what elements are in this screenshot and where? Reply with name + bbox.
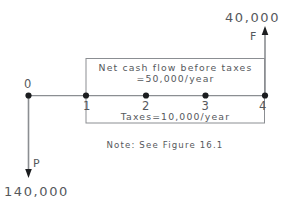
future-value-symbol-label: F (250, 30, 257, 43)
period-marker-3 (202, 92, 208, 98)
period-label-0: 0 (24, 77, 32, 91)
period-label-4: 4 (259, 99, 267, 113)
annotation-line-1: Net cash flow before taxes (99, 62, 253, 73)
period-marker-0 (25, 92, 31, 98)
present-value-arrow-head (25, 169, 32, 178)
cash-flow-diagram: 40,000 F 0 1 2 3 4 Net cash flow before … (0, 0, 297, 202)
annotation-line-3: Taxes=10,000/year (120, 111, 230, 122)
annotation-line-2: =50,000/year (137, 73, 215, 84)
future-value-arrow-head (262, 26, 269, 35)
period-label-1: 1 (83, 99, 91, 113)
period-marker-2 (143, 92, 149, 98)
period-marker-1 (83, 92, 89, 98)
future-value-amount-label: 40,000 (225, 10, 280, 25)
present-value-amount-label: 140,000 (4, 184, 69, 199)
present-value-symbol-label: P (33, 157, 40, 170)
period-marker-4 (262, 92, 268, 98)
diagram-canvas: 40,000 F 0 1 2 3 4 Net cash flow before … (0, 0, 297, 202)
figure-note: Note: See Figure 16.1 (107, 140, 224, 150)
